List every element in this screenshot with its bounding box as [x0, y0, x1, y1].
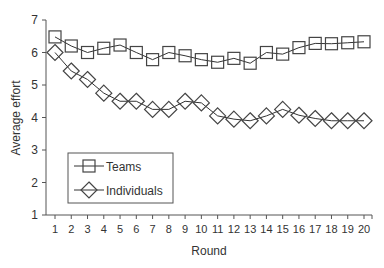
x-tick-label: 17	[309, 223, 321, 235]
x-tick-label: 16	[293, 223, 305, 235]
square-marker-icon	[65, 40, 77, 52]
x-tick-label: 19	[342, 223, 354, 235]
y-tick-label: 1	[31, 208, 38, 222]
square-marker-icon	[228, 52, 240, 64]
y-tick-label: 5	[31, 78, 38, 92]
x-tick-label: 9	[182, 223, 188, 235]
y-tick-label: 7	[31, 13, 38, 27]
y-tick-label: 3	[31, 143, 38, 157]
square-marker-icon	[163, 47, 175, 59]
diamond-marker-icon	[258, 108, 274, 124]
diamond-marker-icon	[291, 107, 307, 123]
square-marker-icon	[342, 37, 354, 49]
diamond-marker-icon	[112, 93, 128, 109]
legend-label-teams: Teams	[106, 160, 141, 174]
y-tick-label: 2	[31, 176, 38, 190]
square-marker-icon	[130, 47, 142, 59]
diamond-marker-icon	[96, 85, 112, 101]
y-axis: 1234567	[31, 13, 46, 222]
square-marker-icon	[114, 39, 126, 51]
square-marker-icon	[293, 42, 305, 54]
x-tick-label: 20	[358, 223, 370, 235]
square-marker-icon	[325, 38, 337, 50]
series-individuals	[47, 45, 372, 129]
x-tick-label: 14	[260, 223, 272, 235]
line-chart: 1234567 1234567891011121314151617181920 …	[0, 0, 384, 268]
square-marker-icon	[277, 48, 289, 60]
diamond-marker-icon	[63, 63, 79, 79]
legend-item-individuals: Individuals	[74, 182, 163, 198]
x-tick-label: 10	[195, 223, 207, 235]
diamond-marker-icon	[356, 113, 372, 129]
square-marker-icon	[212, 56, 224, 68]
square-marker-icon	[83, 160, 95, 172]
square-marker-icon	[309, 37, 321, 49]
x-tick-label: 11	[212, 223, 223, 235]
diamond-marker-icon	[242, 113, 258, 129]
x-tick-label: 5	[117, 223, 123, 235]
x-tick-label: 4	[101, 223, 107, 235]
legend-item-teams: Teams	[74, 160, 141, 174]
x-tick-label: 18	[325, 223, 337, 235]
x-tick-label: 8	[166, 223, 172, 235]
square-marker-icon	[147, 54, 159, 66]
square-marker-icon	[49, 31, 61, 43]
square-marker-icon	[179, 50, 191, 62]
x-axis: 1234567891011121314151617181920	[46, 215, 372, 235]
x-tick-label: 3	[84, 223, 90, 235]
square-marker-icon	[244, 57, 256, 69]
series-teams	[49, 31, 370, 69]
x-tick-label: 15	[277, 223, 289, 235]
y-axis-label: Average effort	[9, 80, 23, 156]
x-tick-label: 2	[68, 223, 74, 235]
square-marker-icon	[358, 36, 370, 48]
diamond-marker-icon	[80, 71, 96, 87]
diamond-marker-icon	[177, 93, 193, 109]
x-tick-label: 12	[228, 223, 240, 235]
square-marker-icon	[98, 42, 110, 54]
x-axis-label: Round	[191, 244, 226, 258]
y-tick-label: 4	[31, 111, 38, 125]
square-marker-icon	[82, 47, 94, 59]
x-tick-label: 6	[133, 223, 139, 235]
series-line	[55, 53, 364, 121]
series-layer	[47, 31, 372, 129]
diamond-marker-icon	[275, 101, 291, 117]
diamond-marker-icon	[340, 113, 356, 129]
x-tick-label: 13	[244, 223, 256, 235]
diamond-marker-icon	[210, 108, 226, 124]
legend-label-individuals: Individuals	[106, 184, 163, 198]
y-tick-label: 6	[31, 46, 38, 60]
diamond-marker-icon	[323, 113, 339, 129]
diamond-marker-icon	[47, 45, 63, 61]
diamond-marker-icon	[226, 111, 242, 127]
square-marker-icon	[260, 47, 272, 59]
chart-canvas: 1234567 1234567891011121314151617181920 …	[0, 0, 384, 268]
diamond-marker-icon	[161, 101, 177, 117]
x-tick-label: 1	[52, 223, 58, 235]
diamond-marker-icon	[307, 110, 323, 126]
x-tick-label: 7	[150, 223, 156, 235]
diamond-marker-icon	[128, 93, 144, 109]
square-marker-icon	[195, 54, 207, 66]
diamond-marker-icon	[145, 101, 161, 117]
diamond-marker-icon	[193, 95, 209, 111]
legend: Teams Individuals	[68, 153, 173, 203]
